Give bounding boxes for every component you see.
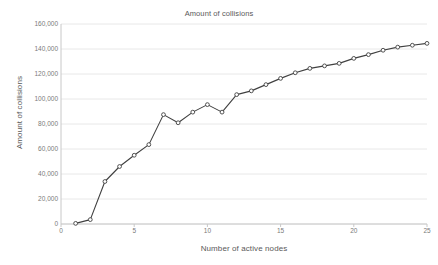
data-point	[396, 45, 400, 49]
data-point	[410, 43, 414, 47]
data-point	[147, 143, 151, 147]
data-point	[235, 93, 239, 97]
series-line	[76, 43, 427, 223]
data-point	[220, 110, 224, 114]
data-point	[249, 89, 253, 93]
data-point	[74, 221, 78, 225]
data-point	[132, 153, 136, 157]
data-point	[323, 64, 327, 68]
data-point	[118, 165, 122, 169]
data-point	[264, 83, 268, 87]
data-point	[162, 113, 166, 117]
data-point	[308, 66, 312, 70]
data-point	[367, 53, 371, 57]
axis-lines	[61, 24, 427, 227]
data-point	[352, 56, 356, 60]
data-point	[293, 71, 297, 75]
data-point	[381, 48, 385, 52]
data-series-collisions	[74, 41, 429, 225]
plot-area	[0, 0, 438, 265]
data-point	[176, 121, 180, 125]
data-point	[425, 41, 429, 45]
data-point	[279, 76, 283, 80]
chart-container: Amount of collisions Amount of collision…	[0, 0, 438, 265]
data-point	[337, 61, 341, 65]
data-point	[191, 110, 195, 114]
data-point	[88, 218, 92, 222]
data-point	[206, 103, 210, 107]
data-point	[103, 180, 107, 184]
